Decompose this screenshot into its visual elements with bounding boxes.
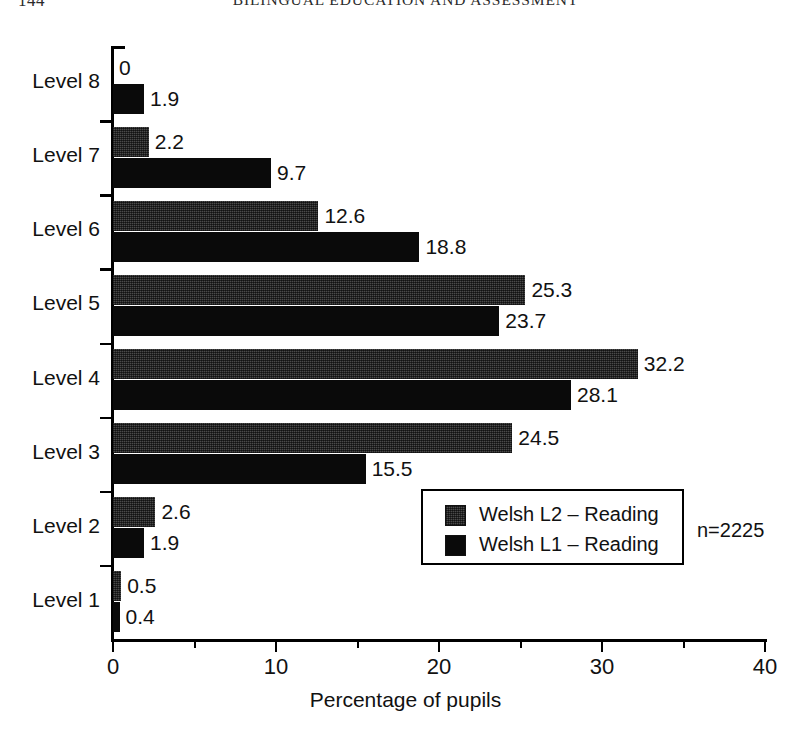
bar-welsh-l1-reading-level-4 (113, 380, 571, 410)
x-axis-tick-major (764, 641, 766, 652)
x-axis-tick-label: 0 (83, 654, 143, 680)
y-axis-category-label: Level 4 (0, 366, 100, 390)
bar-welsh-l2-reading-level-6 (113, 201, 318, 231)
y-axis-category-label: Level 6 (0, 217, 100, 241)
y-axis-group-tick (100, 491, 113, 494)
x-axis-tick-major (438, 641, 440, 652)
bar-value-label: 32.2 (644, 349, 685, 379)
bar-welsh-l2-reading-level-7 (113, 127, 149, 157)
x-axis-tick-major (275, 641, 277, 652)
bar-value-label: 2.2 (155, 127, 184, 157)
bar-welsh-l1-reading-level-7 (113, 158, 271, 188)
chart-legend: Welsh L2 – Reading Welsh L1 – Reading (421, 489, 684, 565)
bar-welsh-l1-reading-level-6 (113, 232, 419, 262)
x-axis-title: Percentage of pupils (0, 688, 811, 712)
bar-value-label: 0 (119, 53, 131, 83)
bar-welsh-l1-reading-level-3 (113, 454, 366, 484)
x-axis-tick-minor (683, 641, 685, 648)
x-axis-tick-minor (194, 641, 196, 648)
x-axis-tick-major (601, 641, 603, 652)
y-axis-top-cap (111, 46, 125, 49)
bar-value-label: 0.5 (127, 571, 156, 601)
bar-value-label: 24.5 (518, 423, 559, 453)
bar-value-label: 23.7 (505, 306, 546, 336)
bar-value-label: 1.9 (150, 528, 179, 558)
bar-value-label: 28.1 (577, 380, 618, 410)
y-axis-category-label: Level 2 (0, 514, 100, 538)
y-axis-group-tick (100, 120, 113, 123)
bar-value-label: 9.7 (277, 158, 306, 188)
y-axis-group-tick (100, 565, 113, 568)
y-axis-group-tick (100, 268, 113, 271)
bar-welsh-l2-reading-level-3 (113, 423, 512, 453)
bar-value-label: 15.5 (372, 454, 413, 484)
x-axis-tick-major (112, 641, 114, 652)
bar-welsh-l2-reading-level-4 (113, 349, 638, 379)
bar-welsh-l2-reading-level-2 (113, 497, 155, 527)
y-axis-group-tick (100, 194, 113, 197)
x-axis-tick-minor (520, 641, 522, 648)
x-axis-tick-label: 40 (735, 654, 795, 680)
sample-size-annotation: n=2225 (697, 519, 764, 542)
bar-welsh-l1-reading-level-5 (113, 306, 499, 336)
y-axis-category-label: Level 7 (0, 143, 100, 167)
y-axis-category-label: Level 1 (0, 588, 100, 612)
bar-value-label: 1.9 (150, 84, 179, 114)
bar-value-label: 12.6 (324, 201, 365, 231)
x-axis-tick-label: 10 (246, 654, 306, 680)
legend-swatch-icon (445, 505, 466, 526)
legend-swatch-icon (445, 535, 466, 556)
bar-value-label: 2.6 (161, 497, 190, 527)
bar-value-label: 0.4 (126, 602, 155, 632)
bar-value-label: 18.8 (425, 232, 466, 262)
x-axis-tick-label: 20 (409, 654, 469, 680)
y-axis-category-label: Level 3 (0, 440, 100, 464)
x-axis-tick-label: 30 (572, 654, 632, 680)
bar-welsh-l1-reading-level-2 (113, 528, 144, 558)
y-axis-category-label: Level 8 (0, 69, 100, 93)
y-axis-group-tick (100, 343, 113, 346)
legend-label: Welsh L2 – Reading (479, 501, 659, 527)
y-axis-group-tick (100, 417, 113, 420)
y-axis-category-label: Level 5 (0, 291, 100, 315)
bar-welsh-l1-reading-level-1 (113, 602, 120, 632)
legend-label: Welsh L1 – Reading (479, 531, 659, 557)
bar-chart: 010203040 Level 8Level 7Level 6Level 5Le… (0, 0, 811, 739)
bar-welsh-l1-reading-level-8 (113, 84, 144, 114)
bar-welsh-l2-reading-level-5 (113, 275, 525, 305)
bar-welsh-l2-reading-level-1 (113, 571, 121, 601)
bar-value-label: 25.3 (531, 275, 572, 305)
x-axis-tick-minor (357, 641, 359, 648)
